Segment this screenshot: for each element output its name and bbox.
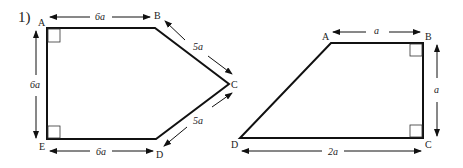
vertex-label-a: A — [38, 17, 46, 28]
dim-label-cd: 5a — [193, 115, 203, 126]
trapezoid-figure: A B C D a a 2a — [231, 25, 439, 157]
dim-label-ea: 6a — [30, 79, 40, 90]
right-angle-marker-a — [48, 29, 60, 42]
vertex-label-d: D — [231, 139, 238, 150]
vertex-label-b: B — [154, 10, 161, 21]
right-angle-marker-b — [410, 44, 422, 56]
vertex-label-c: C — [425, 139, 432, 150]
vertex-label-a: A — [322, 31, 330, 42]
dim-label-ab: 6a — [95, 11, 105, 22]
diagram-canvas: 1) A B C D E 6a 5a 5a 6a 6a — [0, 0, 463, 168]
trapezoid-outline — [240, 43, 423, 138]
vertex-label-b: B — [425, 31, 432, 42]
dim-label-ed: 6a — [96, 146, 106, 157]
vertex-label-e: E — [39, 141, 45, 152]
dim-label-bc: 5a — [193, 41, 203, 52]
vertex-label-c: C — [231, 79, 238, 90]
problem-number: 1) — [18, 9, 31, 26]
dim-label-bc: a — [434, 84, 439, 95]
right-angle-marker-c — [410, 125, 422, 137]
pentagon-figure: A B C D E 6a 5a 5a 6a 6a — [30, 10, 238, 160]
dim-label-dc: 2a — [328, 146, 338, 157]
dim-label-ab: a — [374, 25, 379, 36]
right-angle-marker-e — [48, 126, 60, 138]
vertex-label-d: D — [156, 149, 163, 160]
